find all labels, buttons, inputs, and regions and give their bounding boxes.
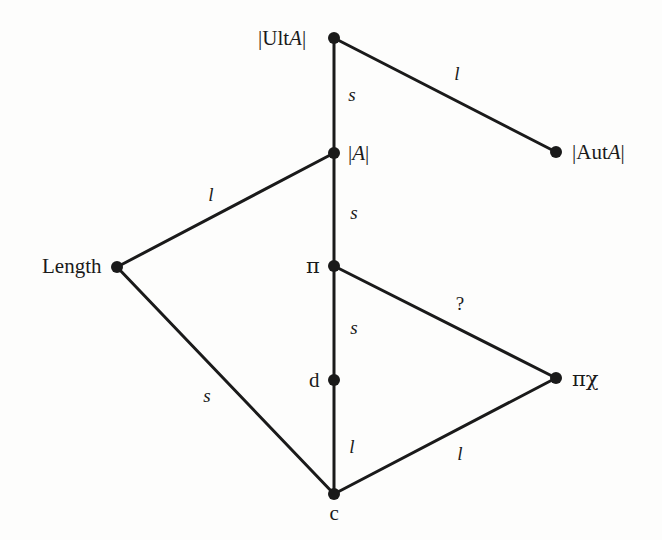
graph-node-pichi bbox=[550, 372, 562, 384]
node-label-autA: |AutA| bbox=[572, 142, 625, 163]
graph-edge-c-pichi bbox=[334, 378, 556, 494]
edge-label-length-c: s bbox=[203, 386, 210, 405]
node-label-c: c bbox=[330, 503, 339, 524]
graph-diagram: |UltA||AutA||A|Lengthππχdcslsls?sll bbox=[0, 0, 662, 540]
node-label-d: d bbox=[309, 370, 320, 391]
edge-label-pi-d: s bbox=[350, 318, 357, 337]
edge-label-c-pichi: l bbox=[457, 444, 462, 463]
nodes-layer bbox=[111, 32, 562, 500]
edge-label-ultA-autA: l bbox=[454, 64, 459, 83]
edge-label-ultA-modA: s bbox=[348, 85, 355, 104]
graph-edge-length-modA bbox=[117, 153, 334, 267]
graph-node-autA bbox=[550, 146, 562, 158]
graph-node-ultA bbox=[328, 32, 340, 44]
node-label-pi: π bbox=[306, 256, 320, 277]
node-label-length: Length bbox=[42, 256, 101, 277]
edge-label-pi-pichi: ? bbox=[456, 294, 464, 313]
edge-label-length-modA: l bbox=[208, 185, 213, 204]
graph-node-pi bbox=[328, 260, 340, 272]
graph-node-length bbox=[111, 261, 123, 273]
node-label-modA: |A| bbox=[348, 143, 369, 164]
edge-label-modA-pi: s bbox=[350, 203, 357, 222]
node-label-pichi: πχ bbox=[572, 369, 599, 390]
graph-edge-pi-pichi bbox=[334, 266, 556, 378]
node-label-ultA: |UltA| bbox=[258, 28, 306, 49]
graph-edge-ultA-autA bbox=[334, 38, 556, 152]
graph-edge-length-c bbox=[117, 267, 334, 494]
graph-node-c bbox=[328, 488, 340, 500]
edge-label-d-c: l bbox=[349, 437, 354, 456]
graph-node-modA bbox=[328, 147, 340, 159]
graph-node-d bbox=[328, 374, 340, 386]
